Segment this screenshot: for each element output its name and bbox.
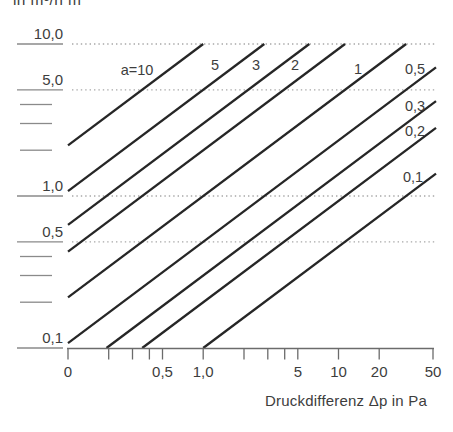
x-tick-label: 0,5 (152, 363, 173, 380)
y-tick-label: 10,0 (34, 25, 63, 42)
series-label: a=10 (121, 62, 154, 78)
series-label: 0,3 (405, 98, 425, 114)
flow-line-a-0,5 (68, 67, 436, 343)
flow-line-a-3 (68, 44, 309, 225)
x-tick-label: 1,0 (193, 363, 214, 380)
x-tick-label: 5 (294, 363, 302, 380)
series-label: 3 (252, 57, 260, 73)
flow-line-a-1 (68, 44, 406, 297)
x-tick-label: 10 (330, 363, 347, 380)
x-tick-label: 0 (64, 363, 72, 380)
series-label: 0,2 (405, 123, 425, 139)
leakage-nomograph-chart: in m³/h m a=1053210,50,30,20,100,51,0510… (0, 0, 453, 432)
x-tick-label: 50 (425, 363, 442, 380)
flow-line-a-10 (68, 44, 203, 145)
series-label: 2 (291, 57, 299, 73)
series-label: 1 (354, 61, 362, 77)
flow-line-a-2 (68, 44, 345, 252)
y-tick-label: 1,0 (42, 177, 63, 194)
y-tick-label: 0,1 (42, 329, 63, 346)
flow-line-a-0,1 (203, 174, 436, 348)
y-tick-label: 5,0 (42, 71, 63, 88)
y-tick-label: 0,5 (42, 223, 63, 240)
x-axis-title: Druckdifferenz Δp in Pa (265, 392, 427, 409)
chart-canvas: a=1053210,50,30,20,100,51,0510205010,05,… (0, 0, 453, 432)
flow-line-a-0,2 (142, 128, 436, 348)
series-label: 0,5 (405, 61, 425, 77)
series-label: 0,1 (403, 169, 423, 185)
flow-line-a-0,3 (107, 101, 437, 348)
series-label: 5 (211, 57, 219, 73)
flow-line-a-5 (68, 44, 264, 191)
x-tick-label: 20 (371, 363, 388, 380)
